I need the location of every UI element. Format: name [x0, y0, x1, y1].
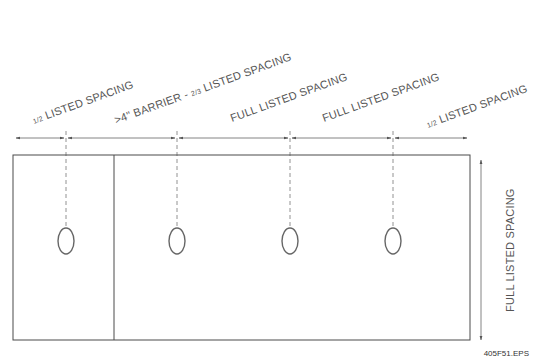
- label-barrier-spacing: >4" BARRIER - 2/3 LISTED SPACING: [113, 50, 293, 125]
- sprinkler-head-icon: [58, 228, 74, 254]
- spacing-diagram: 1/2 LISTED SPACING >4" BARRIER - 2/3 LIS…: [0, 0, 535, 363]
- sprinkler-head-icon: [169, 228, 185, 254]
- sprinkler-heads: [58, 228, 401, 254]
- sprinkler-centerlines: [66, 131, 393, 228]
- sprinkler-head-icon: [282, 228, 298, 254]
- sprinkler-head-icon: [385, 228, 401, 254]
- label-vertical-full-spacing: FULL LISTED SPACING: [504, 188, 516, 312]
- label-half-spacing-right: 1/2 LISTED SPACING: [425, 82, 529, 130]
- room-outline: [13, 155, 470, 340]
- figure-id: 405F51.EPS: [484, 349, 529, 358]
